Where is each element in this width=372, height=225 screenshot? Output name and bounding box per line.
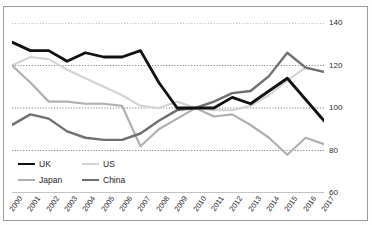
chart-frame: 1401201008060 20002001200220032004200520… [3, 6, 368, 221]
x-axis-label-2012: 2012 [228, 195, 244, 213]
series-line-uk [12, 42, 324, 121]
x-axis-label-2006: 2006 [118, 195, 134, 213]
x-axis-label-2013: 2013 [247, 195, 263, 213]
legend-item-uk[interactable]: UK [18, 158, 51, 170]
legend-item-japan[interactable]: Japan [18, 174, 62, 186]
x-axis-label-2004: 2004 [82, 195, 98, 213]
x-axis-label-2011: 2011 [210, 195, 226, 213]
legend-swatch-uk [18, 163, 35, 165]
x-axis-label-2003: 2003 [63, 195, 79, 213]
legend-swatch-china [82, 179, 99, 181]
x-axis: 2000200120022003200420052006200720082009… [12, 195, 324, 225]
chart-legend: UKUSJapanChina [18, 158, 168, 190]
y-axis-label-100: 100 [329, 104, 342, 112]
legend-label-us: US [103, 159, 115, 169]
x-axis-label-2000: 2000 [8, 195, 24, 213]
x-axis-label-2016: 2016 [302, 195, 318, 213]
x-axis-label-2014: 2014 [265, 195, 281, 213]
x-axis-label-2009: 2009 [173, 195, 189, 213]
legend-swatch-us [82, 163, 99, 165]
legend-label-china: China [103, 175, 125, 185]
legend-item-us[interactable]: US [82, 158, 115, 170]
legend-item-china[interactable]: China [82, 174, 125, 186]
x-axis-label-2017: 2017 [320, 195, 336, 213]
x-axis-label-2001: 2001 [26, 195, 42, 213]
x-axis-label-2015: 2015 [283, 195, 299, 213]
legend-label-japan: Japan [39, 175, 62, 185]
series-line-japan [12, 66, 324, 155]
y-axis-label-80: 80 [329, 147, 338, 155]
y-axis-label-140: 140 [329, 19, 342, 27]
x-axis-label-2005: 2005 [100, 195, 116, 213]
chart-page: 1401201008060 20002001200220032004200520… [0, 0, 372, 225]
x-axis-label-2002: 2002 [45, 195, 61, 213]
x-axis-label-2007: 2007 [137, 195, 153, 213]
legend-label-uk: UK [39, 159, 51, 169]
x-axis-label-2010: 2010 [192, 195, 208, 213]
legend-swatch-japan [18, 179, 35, 181]
y-axis-label-120: 120 [329, 62, 342, 70]
x-axis-label-2008: 2008 [155, 195, 171, 213]
